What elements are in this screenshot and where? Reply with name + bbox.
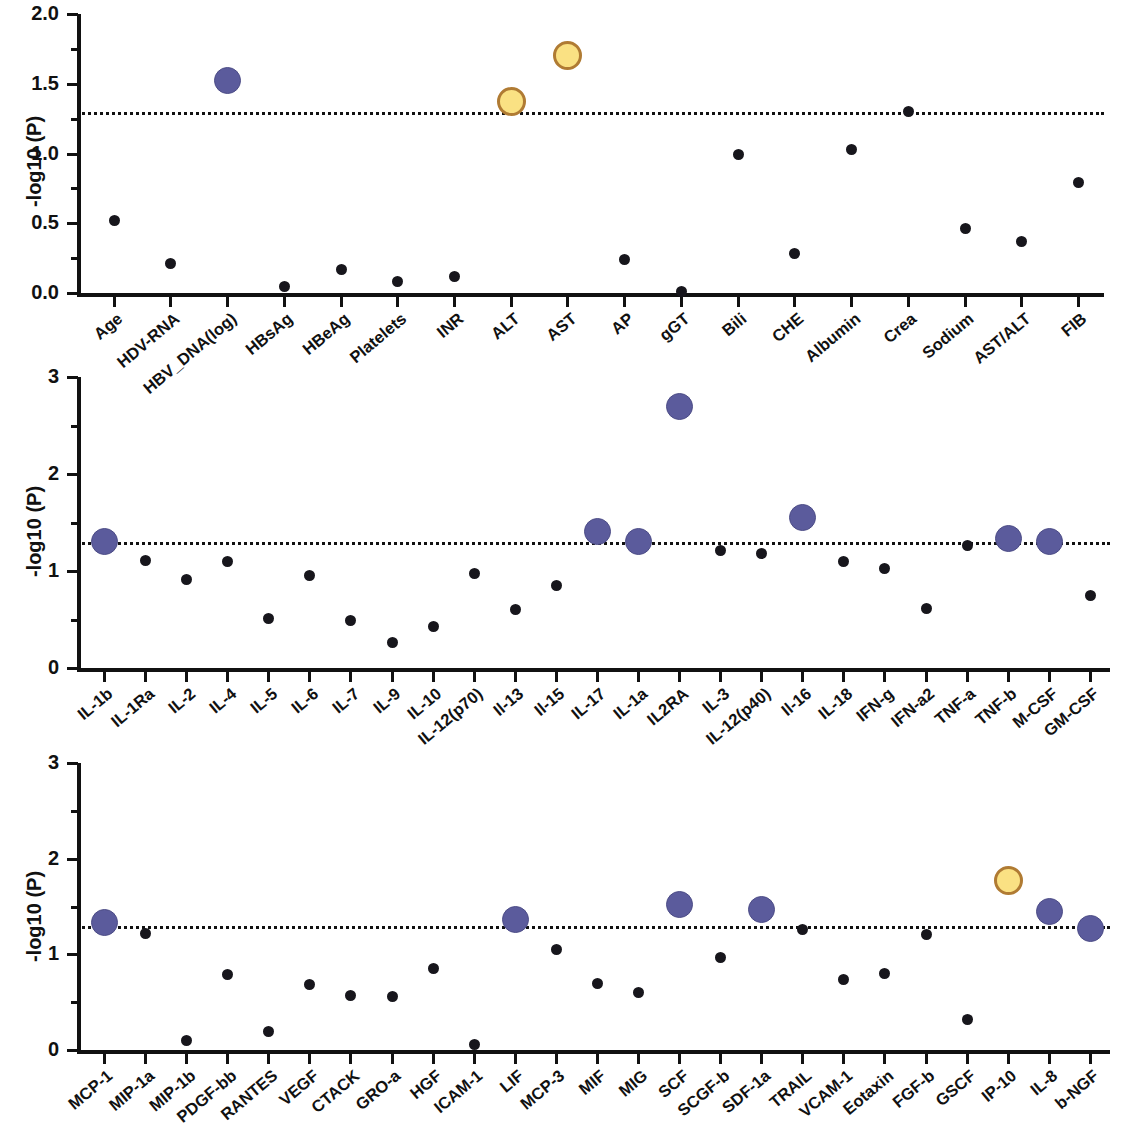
- data-point-fgf-b: [921, 929, 932, 940]
- x-axis-tick: [340, 296, 343, 307]
- x-axis-tick: [925, 671, 928, 682]
- x-axis-tick: [637, 671, 640, 682]
- x-axis-tick: [514, 671, 517, 682]
- data-point-sodium: [960, 223, 971, 234]
- x-axis-tick: [555, 671, 558, 682]
- y-axis-tick: [67, 570, 78, 573]
- x-axis-tick: [391, 671, 394, 682]
- data-point-scgf-b: [715, 952, 726, 963]
- data-point-il-13: [510, 604, 521, 615]
- x-axis-tick: [226, 671, 229, 682]
- data-point-scf: [666, 891, 693, 918]
- x-axis-tick: [226, 296, 229, 307]
- y-axis-title: -log10 (P): [23, 102, 46, 222]
- x-axis-tick: [396, 296, 399, 307]
- y-axis-tick-label: 3: [13, 752, 59, 772]
- data-point-gm-csf: [1085, 590, 1096, 601]
- y-axis-tick: [67, 473, 78, 476]
- data-point-gro-a: [387, 991, 398, 1002]
- data-point-il-1ra: [140, 555, 151, 566]
- panel-cytokines: 0123-log10 (P)IL-1bIL-1RaIL-2IL-4IL-5IL-…: [0, 360, 1129, 750]
- data-point-tnf-a: [962, 540, 973, 551]
- x-axis-tick: [1007, 1053, 1010, 1064]
- x-axis-tick: [510, 296, 513, 307]
- x-axis-tick: [1077, 296, 1080, 307]
- x-axis-tick: [349, 671, 352, 682]
- x-axis-tick: [883, 671, 886, 682]
- data-point-ap: [619, 254, 630, 265]
- data-point-mig: [633, 987, 644, 998]
- y-axis-minor-tick: [71, 118, 78, 121]
- data-point-il-2: [181, 574, 192, 585]
- data-point-pdgf-bb: [222, 969, 233, 980]
- data-point-hdv-rna: [165, 258, 176, 269]
- x-axis-tick: [226, 1053, 229, 1064]
- y-axis-minor-tick: [71, 1001, 78, 1004]
- data-point-ast-alt: [1016, 236, 1027, 247]
- data-point-trail: [797, 924, 808, 935]
- data-point-il-18: [838, 556, 849, 567]
- data-point-il2ra: [666, 393, 693, 420]
- data-point-il-8: [1036, 898, 1063, 925]
- data-point-il-4: [222, 556, 233, 567]
- x-axis-tick: [432, 671, 435, 682]
- x-axis-tick: [801, 1053, 804, 1064]
- data-point-inr: [449, 271, 460, 282]
- x-axis-line: [77, 1050, 1110, 1054]
- x-axis-tick: [883, 1053, 886, 1064]
- x-axis-tick: [1020, 296, 1023, 307]
- y-axis-tick: [67, 83, 78, 86]
- x-axis-tick: [842, 1053, 845, 1064]
- x-axis-tick: [267, 1053, 270, 1064]
- data-point-il-10: [428, 621, 439, 632]
- y-axis-minor-tick: [71, 906, 78, 909]
- data-point-il-7: [345, 615, 356, 626]
- data-point-vegf: [304, 979, 315, 990]
- x-axis-tick: [801, 671, 804, 682]
- data-point-il-17: [584, 518, 611, 545]
- x-axis-tick: [925, 1053, 928, 1064]
- data-point-ast: [553, 41, 582, 70]
- y-axis-tick-label: 3: [13, 366, 59, 386]
- x-axis-line: [77, 293, 1104, 297]
- significance-threshold-line: [77, 112, 1104, 115]
- data-point-age: [109, 215, 120, 226]
- y-axis-minor-tick: [71, 425, 78, 428]
- data-point-platelets: [392, 276, 403, 287]
- data-point-mip-1b: [181, 1035, 192, 1046]
- y-axis-tick: [67, 13, 78, 16]
- x-axis-tick: [907, 296, 910, 307]
- x-axis-tick: [623, 296, 626, 307]
- y-axis-tick: [67, 953, 78, 956]
- y-axis-tick: [67, 1049, 78, 1052]
- y-axis-tick-label: 2.0: [13, 3, 59, 23]
- x-axis-tick: [596, 1053, 599, 1064]
- x-axis-tick: [760, 671, 763, 682]
- x-axis-tick: [793, 296, 796, 307]
- x-axis-tick: [555, 1053, 558, 1064]
- significance-threshold-line: [77, 926, 1110, 929]
- x-axis-tick: [473, 1053, 476, 1064]
- data-point-hbeag: [336, 264, 347, 275]
- data-point-gscf: [962, 1014, 973, 1025]
- x-axis-tick: [514, 1053, 517, 1064]
- x-axis-tick: [432, 1053, 435, 1064]
- x-axis-tick: [1007, 671, 1010, 682]
- x-axis-tick: [113, 296, 116, 307]
- data-point-hbv-dna-log: [214, 67, 241, 94]
- y-axis-tick: [67, 762, 78, 765]
- panel-clinical-parameters: 0.00.51.01.52.0-log10 (P)AgeHDV-RNAHBV_D…: [0, 0, 1129, 360]
- x-axis-tick: [453, 296, 456, 307]
- figure-root: 0.00.51.01.52.0-log10 (P)AgeHDV-RNAHBV_D…: [0, 0, 1129, 1134]
- x-axis-tick: [842, 671, 845, 682]
- data-point-ip-10: [994, 866, 1023, 895]
- panel-chemokines-growth-factors: 0123-log10 (P)MCP-1MIP-1aMIP-1bPDGF-bbRA…: [0, 750, 1129, 1134]
- x-axis-tick: [169, 296, 172, 307]
- y-axis-tick-label: 0: [13, 1039, 59, 1059]
- y-axis-tick: [67, 153, 78, 156]
- data-point-b-ngf: [1077, 915, 1104, 942]
- x-axis-tick: [719, 1053, 722, 1064]
- x-axis-tick: [719, 671, 722, 682]
- data-point-hbsag: [279, 281, 290, 292]
- data-point-il-3: [715, 545, 726, 556]
